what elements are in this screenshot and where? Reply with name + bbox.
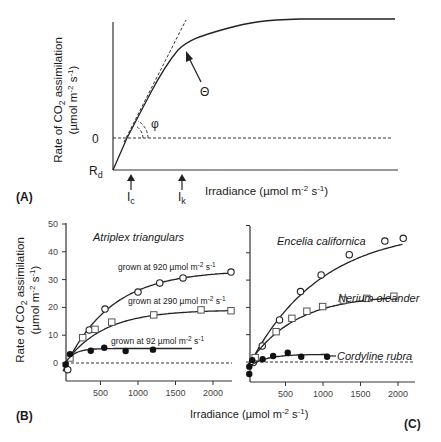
y-tick-label: 10 <box>48 330 58 340</box>
panel-c: 500100015002000 Encelia californica Neri… <box>246 226 421 432</box>
svg-text:(µmol m-2 s-1): (µmol m-2 s-1) <box>28 265 41 334</box>
filled-circle-marker <box>101 345 107 351</box>
open-circle-marker <box>297 288 303 294</box>
filled-circle-marker <box>298 354 304 360</box>
label-cordyline: Cordyline rubra <box>337 350 412 362</box>
legend-92: grown at 92 µmol m-2 s-1 <box>111 335 204 346</box>
ik-arrow-head-icon <box>178 174 186 181</box>
panel-a-rd-label: Rd <box>89 164 103 180</box>
panel-c-x-ticks: 500100015002000 <box>278 382 408 399</box>
y-tick-label: 0 <box>53 358 58 368</box>
filled-circle-marker <box>249 357 255 363</box>
panel-a-response-curve <box>113 19 395 170</box>
open-circle-marker <box>102 306 108 312</box>
theta-arrow-head-icon <box>186 51 193 62</box>
x-tick-label: 1000 <box>128 388 148 398</box>
legend-290: grown at 290 µmol m-2 s-1 <box>128 295 226 306</box>
open-square-marker <box>109 319 115 325</box>
filled-circle-marker <box>285 350 291 356</box>
open-circle-marker <box>318 272 324 278</box>
panel-b-x-ticks: 500100015002000 <box>93 381 223 398</box>
x-tick-label: 500 <box>278 389 293 399</box>
ic-arrow-head-icon <box>127 174 135 181</box>
filled-circle-marker <box>62 361 68 367</box>
panel-a-zero-label: 0 <box>92 132 99 146</box>
panel-b-y-ticks: 01020304050 <box>48 219 66 368</box>
open-circle-marker <box>135 289 141 295</box>
filled-circle-marker <box>270 353 276 359</box>
open-circle-marker <box>382 238 388 244</box>
open-square-marker <box>319 303 325 309</box>
filled-circle-marker <box>150 346 156 352</box>
x-tick-label: 2000 <box>203 388 223 398</box>
filled-circle-marker <box>324 354 330 360</box>
panel-a: φ Θ 0 Rd Ic Ik Irradiance (µmol m-2 s-1)… <box>16 19 398 206</box>
open-circle-marker <box>276 317 282 323</box>
filled-circle-marker <box>259 356 265 362</box>
open-square-marker <box>228 308 234 314</box>
filled-circle-marker <box>246 371 252 377</box>
open-circle-marker <box>157 280 163 286</box>
filled-circle-marker <box>67 351 73 357</box>
y-tick-label: 30 <box>48 275 58 285</box>
panel-b-label: (B) <box>16 409 33 423</box>
open-circle-marker <box>228 269 234 275</box>
svg-text:Rate of CO2 assimilation: Rate of CO2 assimilation <box>14 237 29 363</box>
label-nerium: Nerium oleander <box>338 292 421 304</box>
open-square-marker <box>304 308 310 314</box>
panel-a-label: (A) <box>16 190 33 204</box>
x-tick-label: 1000 <box>313 389 333 399</box>
figure: φ Θ 0 Rd Ic Ik Irradiance (µmol m-2 s-1)… <box>0 0 441 442</box>
filled-circle-marker <box>88 348 94 354</box>
panel-b-y-label: Rate of CO2 assimilation (µmol m-2 s-1) <box>14 237 41 363</box>
label-encelia: Encelia californica <box>277 235 366 247</box>
ik-label: Ik <box>178 190 186 206</box>
filled-circle-marker <box>246 363 252 369</box>
open-circle-marker <box>400 235 406 241</box>
open-square-marker <box>92 326 98 332</box>
open-square-marker <box>273 328 279 334</box>
panel-b-series <box>62 269 234 373</box>
panel-b: 01020304050 500100015002000 Atriplex tri… <box>14 219 234 423</box>
shared-x-label: Irradiance (µmol m-2 s-1) <box>190 407 308 420</box>
open-square-marker <box>151 312 157 318</box>
panel-a-y-label: Rate of CO2 assimilation (µmol m-2 s-1) <box>52 37 79 163</box>
svg-text:Rate of CO2 assimilation: Rate of CO2 assimilation <box>52 37 67 163</box>
theta-arrow-line <box>189 58 201 82</box>
x-tick-label: 1500 <box>165 388 185 398</box>
x-tick-label: 2000 <box>388 389 408 399</box>
svg-text:(µmol m-2 s-1): (µmol m-2 s-1) <box>66 65 79 134</box>
panel-a-x-label: Irradiance (µmol m-2 s-1) <box>205 184 328 197</box>
open-circle-marker <box>180 275 186 281</box>
phi-label: φ <box>151 117 159 131</box>
open-square-marker <box>289 315 295 321</box>
y-tick-label: 20 <box>48 302 58 312</box>
filled-circle-marker <box>122 348 128 354</box>
x-tick-label: 500 <box>93 388 108 398</box>
phi-arc-inner <box>136 126 143 138</box>
open-square-marker <box>198 307 204 313</box>
fit-curve <box>248 355 328 368</box>
y-tick-label: 50 <box>48 219 58 229</box>
y-tick-label: 40 <box>48 247 58 257</box>
legend-920: grown at 920 µmol m-2 s-1 <box>118 261 216 272</box>
panel-b-title: Atriplex triangulars <box>92 231 185 243</box>
theta-label: Θ <box>200 85 209 99</box>
open-circle-marker <box>346 252 352 258</box>
panel-c-label: (C) <box>404 417 421 431</box>
open-square-marker <box>80 335 86 341</box>
x-tick-label: 1500 <box>350 389 370 399</box>
fit-curve <box>63 273 231 371</box>
ic-label: Ic <box>127 190 135 206</box>
